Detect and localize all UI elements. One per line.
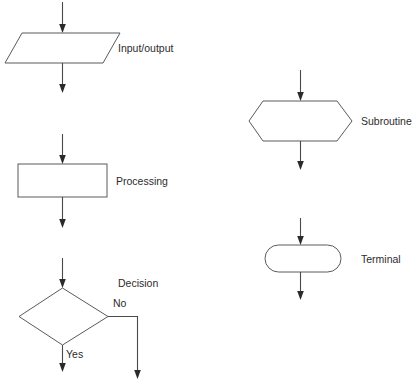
arrow-head	[59, 84, 66, 93]
arrow-into-subroutine	[297, 70, 304, 101]
symbol-decision-group: Decision No Yes	[19, 258, 158, 379]
processing-label: Processing	[116, 175, 168, 187]
arrow-head	[59, 279, 66, 288]
flowchart-canvas: Input/output Processing	[0, 0, 419, 386]
input-output-shape	[5, 33, 120, 63]
arrow-head	[297, 236, 304, 245]
branch-yes-label: Yes	[66, 348, 83, 360]
terminal-shape	[265, 245, 341, 272]
arrow-into-decision	[59, 258, 66, 288]
terminal-label: Terminal	[361, 253, 401, 265]
processing-shape	[18, 164, 107, 197]
arrow-head	[297, 291, 304, 300]
arrow-head	[59, 155, 66, 164]
arrow-out-of-processing	[59, 197, 66, 228]
arrow-into-terminal	[297, 218, 304, 245]
subroutine-shape	[249, 101, 352, 141]
branch-no-label: No	[113, 297, 127, 309]
arrow-out-of-input-output	[59, 63, 66, 93]
arrow-head	[297, 161, 304, 170]
arrow-shaft	[108, 317, 138, 373]
arrow-out-of-terminal	[297, 272, 304, 300]
arrow-head	[59, 219, 66, 228]
decision-label: Decision	[118, 277, 158, 289]
flowchart-diagram: Input/output Processing	[0, 0, 419, 386]
arrow-into-processing	[59, 134, 66, 164]
arrow-head	[59, 363, 66, 372]
branch-yes	[59, 345, 66, 372]
input-output-label: Input/output	[118, 42, 174, 54]
arrow-out-of-subroutine	[297, 141, 304, 170]
arrow-head	[134, 370, 141, 379]
subroutine-label: Subroutine	[361, 115, 412, 127]
arrow-into-input-output	[59, 2, 66, 33]
symbol-processing-group: Processing	[18, 134, 168, 228]
symbol-terminal-group: Terminal	[265, 218, 401, 300]
symbol-subroutine-group: Subroutine	[249, 70, 412, 170]
decision-shape	[19, 288, 108, 345]
arrow-head	[297, 92, 304, 101]
branch-no	[108, 317, 141, 380]
arrow-head	[59, 24, 66, 33]
symbol-input-output-group: Input/output	[5, 2, 174, 93]
